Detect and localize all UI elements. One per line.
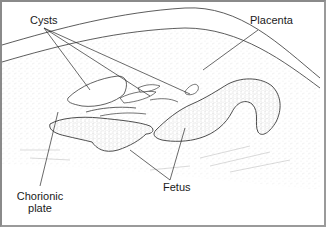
label-placenta: Placenta [250,14,293,26]
label-cysts: Cysts [30,14,58,26]
label-chorionic-line2: plate [12,202,68,214]
label-chorionic-line1: Chorionic [12,190,68,202]
label-fetus: Fetus [163,181,191,193]
label-chorionic-plate: Chorionic plate [12,190,68,214]
